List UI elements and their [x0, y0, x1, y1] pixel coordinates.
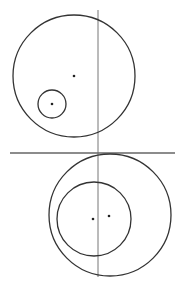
- top-figure: [13, 15, 135, 137]
- top-inner-center-dot: [51, 103, 54, 106]
- bottom-outer-center-dot: [108, 215, 111, 218]
- bottom-inner-center-dot: [92, 218, 95, 221]
- geometry-diagram: [0, 0, 182, 287]
- top-outer-center-dot: [73, 75, 76, 78]
- bottom-figure: [49, 154, 171, 276]
- bottom-outer-circle: [49, 154, 171, 276]
